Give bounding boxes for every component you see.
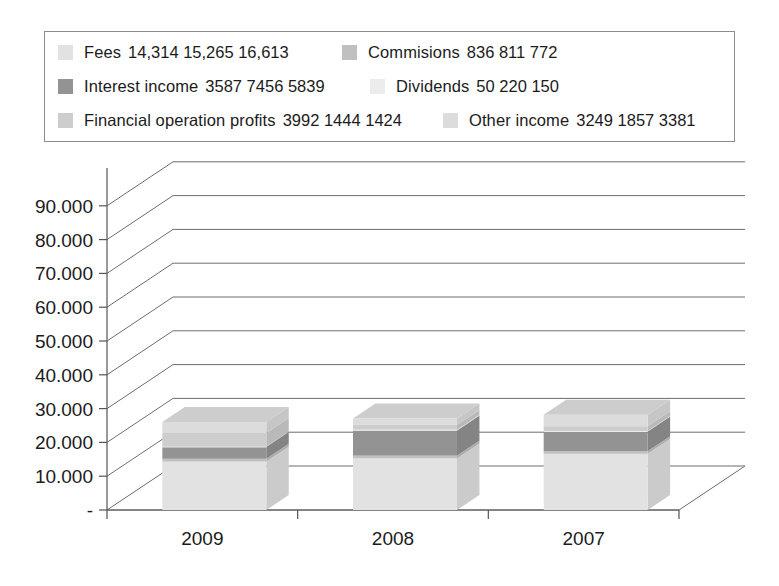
x-axis-tick-label: 2007 bbox=[563, 528, 605, 549]
legend-values-financial-operation-profits: 3992 1444 1424 bbox=[283, 111, 402, 130]
y-axis-tick-label: 30.000 bbox=[35, 399, 93, 420]
bar-group bbox=[353, 404, 479, 510]
legend-entry-dividends: Dividends 50 220 150 bbox=[370, 72, 559, 100]
legend-label-fees: Fees bbox=[84, 43, 121, 62]
chart-svg: -10.00020.00030.00040.00050.00060.00070.… bbox=[0, 150, 779, 586]
legend-values-dividends: 50 220 150 bbox=[476, 77, 559, 96]
bar-group bbox=[162, 407, 288, 510]
y-axis-tick-label: 60.000 bbox=[35, 297, 93, 318]
x-axis: 200920082007 bbox=[107, 510, 679, 549]
legend-swatch-fees bbox=[58, 45, 73, 60]
x-axis-tick-label: 2008 bbox=[372, 528, 414, 549]
legend-swatch-financial-operation-profits bbox=[58, 113, 73, 128]
y-axis-tick-label: - bbox=[87, 500, 93, 521]
y-axis-tick-label: 90.000 bbox=[35, 196, 93, 217]
legend-label-financial-operation-profits: Financial operation profits bbox=[84, 111, 276, 130]
legend-values-interest-income: 3587 7456 5839 bbox=[205, 77, 324, 96]
y-axis-tick-label: 70.000 bbox=[35, 263, 93, 284]
legend-values-fees: 14,314 15,265 16,613 bbox=[128, 43, 289, 62]
legend-entry-commisions: Commisions 836 811 772 bbox=[342, 38, 557, 66]
y-axis-tick-label: 80.000 bbox=[35, 230, 93, 251]
legend-label-commisions: Commisions bbox=[368, 43, 460, 62]
legend-swatch-commisions bbox=[342, 45, 357, 60]
y-axis-tick-label: 50.000 bbox=[35, 331, 93, 352]
y-axis-tick-label: 20.000 bbox=[35, 432, 93, 453]
legend-swatch-other-income bbox=[443, 113, 458, 128]
legend-values-commisions: 836 811 772 bbox=[467, 43, 558, 62]
legend-entry-interest-income: Interest income 3587 7456 5839 bbox=[58, 72, 325, 100]
legend-row: Fees 14,314 15,265 16,613 Commisions 836… bbox=[45, 38, 734, 70]
x-axis-tick-label: 2009 bbox=[181, 528, 223, 549]
legend-entry-financial-operation-profits: Financial operation profits 3992 1444 14… bbox=[58, 106, 402, 134]
legend-values-other-income: 3249 1857 3381 bbox=[576, 111, 695, 130]
bar-group bbox=[544, 400, 670, 510]
chart-bars bbox=[162, 400, 670, 510]
legend-swatch-dividends bbox=[370, 79, 385, 94]
chart-plot-area: -10.00020.00030.00040.00050.00060.00070.… bbox=[0, 150, 779, 586]
legend-entry-fees: Fees 14,314 15,265 16,613 bbox=[58, 38, 289, 66]
chart-container: Fees 14,314 15,265 16,613 Commisions 836… bbox=[0, 0, 779, 586]
legend-label-dividends: Dividends bbox=[396, 77, 469, 96]
chart-legend: Fees 14,314 15,265 16,613 Commisions 836… bbox=[44, 31, 735, 142]
legend-row: Interest income 3587 7456 5839 Dividends… bbox=[45, 72, 734, 104]
legend-row: Financial operation profits 3992 1444 14… bbox=[45, 106, 734, 138]
y-axis-tick-label: 10.000 bbox=[35, 466, 93, 487]
legend-label-other-income: Other income bbox=[469, 111, 569, 130]
legend-entry-other-income: Other income 3249 1857 3381 bbox=[443, 106, 696, 134]
legend-label-interest-income: Interest income bbox=[84, 77, 198, 96]
y-axis-tick-label: 40.000 bbox=[35, 365, 93, 386]
legend-swatch-interest-income bbox=[58, 79, 73, 94]
